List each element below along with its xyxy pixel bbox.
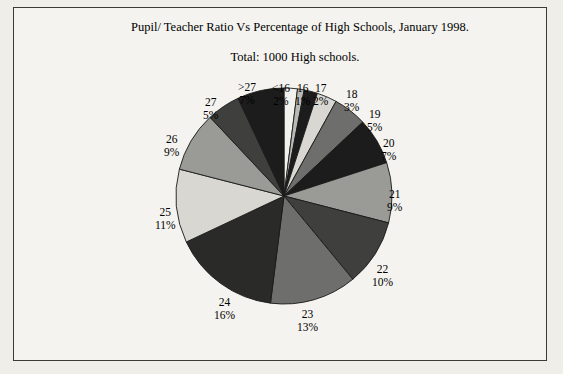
chart-frame: Pupil/ Teacher Ratio Vs Percentage of Hi…	[13, 7, 547, 361]
pie-label-25: 25 11%	[155, 206, 176, 231]
pie-label-24: 24 16%	[214, 296, 235, 321]
pie-label-21: 21 9%	[387, 188, 402, 213]
pie-label-27: 27 5%	[203, 96, 218, 121]
pie-label-19: 19 5%	[367, 108, 382, 133]
pie-label-23: 23 13%	[297, 308, 318, 333]
pie-label-26: 26 9%	[164, 133, 179, 158]
pie-label-17: 17 2%	[313, 82, 328, 107]
pie-label-18: 18 3%	[344, 88, 359, 113]
pie-label-16: 16 1%	[295, 82, 310, 107]
pie-label-20: 20 7%	[381, 137, 396, 162]
chart-subtitle: Total: 1000 High schools.	[14, 50, 546, 65]
pie-label-gt27: >27 7%	[238, 81, 256, 106]
pie-label-lt16: <16 2%	[272, 82, 290, 107]
pie-label-22: 22 10%	[372, 263, 393, 288]
chart-title: Pupil/ Teacher Ratio Vs Percentage of Hi…	[14, 20, 546, 35]
